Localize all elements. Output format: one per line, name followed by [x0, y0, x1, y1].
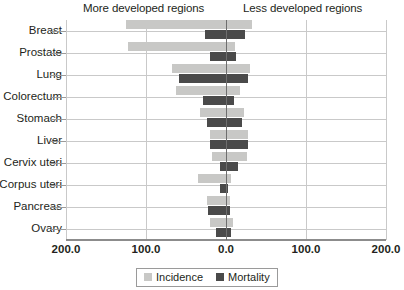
- y-axis-tick: [50, 97, 66, 98]
- zero-line: [226, 20, 227, 240]
- y-axis-label-prostate: Prostate: [19, 46, 62, 58]
- bar-incidence: [210, 130, 248, 139]
- y-axis-tick: [50, 229, 66, 230]
- x-axis-tick-label: 100.0: [132, 243, 161, 255]
- plot-area: [66, 20, 386, 240]
- y-axis-tick: [50, 185, 66, 186]
- less-developed-regions-label: Less developed regions: [243, 2, 362, 14]
- bar-incidence: [126, 20, 252, 29]
- y-axis-label-stomach: Stomach: [17, 112, 62, 124]
- y-axis-label-pancreas: Pancreas: [13, 200, 62, 212]
- bar-incidence: [212, 152, 247, 161]
- y-axis-label-lung: Lung: [36, 68, 62, 80]
- legend-item-incidence: Incidence: [144, 271, 203, 283]
- bar-mortality: [210, 140, 248, 149]
- bar-incidence: [200, 108, 244, 117]
- y-axis-tick: [50, 31, 66, 32]
- legend-label-mortality: Mortality: [228, 271, 270, 283]
- y-axis-tick: [50, 119, 66, 120]
- bar-mortality: [179, 74, 248, 83]
- y-axis-tick: [50, 141, 66, 142]
- x-axis-tick-label: 0.0: [218, 243, 234, 255]
- y-axis-tick: [50, 75, 66, 76]
- bar-incidence: [128, 42, 234, 51]
- y-axis-tick: [50, 163, 66, 164]
- bar-mortality: [216, 228, 231, 237]
- bar-incidence: [210, 218, 233, 227]
- y-axis-label-liver: Liver: [37, 134, 62, 146]
- bar-mortality: [203, 96, 234, 105]
- gridline-vertical: [386, 20, 387, 240]
- bar-mortality: [210, 52, 236, 61]
- bar-mortality: [207, 118, 242, 127]
- bar-incidence: [176, 86, 239, 95]
- x-axis-tick-label: 200.0: [52, 243, 81, 255]
- y-axis-tick: [50, 207, 66, 208]
- legend-swatch-incidence: [144, 273, 152, 281]
- legend-item-mortality: Mortality: [216, 271, 270, 283]
- bar-mortality: [220, 162, 238, 171]
- more-developed-regions-label: More developed regions: [83, 2, 204, 14]
- legend-label-incidence: Incidence: [156, 271, 203, 283]
- legend-swatch-mortality: [216, 273, 224, 281]
- y-axis-label-breast: Breast: [29, 24, 62, 36]
- chart-container: More developed regions Less developed re…: [0, 0, 404, 290]
- y-axis-label-corpus-uteri: Corpus uteri: [0, 178, 62, 190]
- bar-mortality: [220, 184, 229, 193]
- bar-incidence: [172, 64, 250, 73]
- y-axis-label-colorectum: Colorectum: [3, 90, 62, 102]
- x-axis-tick-label: 200.0: [372, 243, 401, 255]
- chart-legend: Incidence Mortality: [136, 268, 278, 287]
- y-axis-label-ovary: Ovary: [31, 222, 62, 234]
- x-axis-tick-label: 100.0: [292, 243, 321, 255]
- y-axis-tick: [50, 53, 66, 54]
- y-axis-label-cervix-uteri: Cervix uteri: [4, 156, 62, 168]
